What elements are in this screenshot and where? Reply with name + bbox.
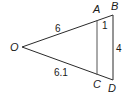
vertex-label-D: D xyxy=(108,82,116,92)
segment-OB xyxy=(22,15,113,47)
similar-triangles-diagram: O A B C D 6 1 4 6.1 xyxy=(0,0,128,92)
vertex-label-C: C xyxy=(93,78,101,90)
vertex-label-O: O xyxy=(10,41,19,53)
length-label-OC: 6.1 xyxy=(54,67,68,78)
vertex-label-A: A xyxy=(92,3,100,15)
length-label-BD: 4 xyxy=(116,43,122,54)
length-label-OA: 6 xyxy=(55,23,61,34)
length-label-AB: 1 xyxy=(102,20,108,31)
vertex-label-B: B xyxy=(111,0,118,12)
